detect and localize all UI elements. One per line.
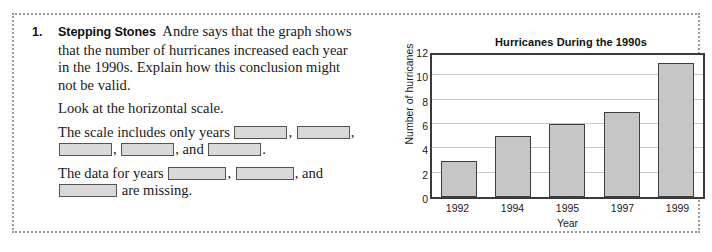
x-axis-tick-labels: 19921994199519971999 <box>430 202 705 214</box>
y-tick-label: 6 <box>422 120 428 132</box>
bar-1994 <box>495 136 531 197</box>
y-axis-tick-labels: 024681012 <box>406 53 428 199</box>
x-tick-label: 1997 <box>602 202 644 214</box>
fill-in-2-comma-a: , <box>227 165 231 181</box>
answer-blank-8[interactable] <box>59 184 117 197</box>
y-tick-label: 0 <box>422 193 428 205</box>
fill-in-1-period: . <box>262 141 266 157</box>
x-tick-label: 1992 <box>437 202 479 214</box>
plot-area <box>430 53 705 199</box>
bar-1997 <box>604 112 640 197</box>
problem-number: 1. <box>32 25 54 39</box>
answer-blank-5[interactable] <box>208 143 261 156</box>
fill-in-sentence-2: The data for years , , and are missing. <box>58 165 358 200</box>
bar-1999 <box>658 63 694 197</box>
fill-in-1-and: , and <box>175 141 203 157</box>
fill-in-1-comma-a: , <box>288 124 292 140</box>
y-tick-label: 8 <box>422 96 428 108</box>
answer-blank-4[interactable] <box>121 143 174 156</box>
y-tick-label: 4 <box>422 144 428 156</box>
problem-hint: Look at the horizontal scale. <box>58 100 358 118</box>
answer-blank-6[interactable] <box>168 167 226 180</box>
bar-1995 <box>549 124 585 197</box>
bar-1992 <box>441 161 477 198</box>
problem-prompt-paragraph: Stepping Stones Andre says that the grap… <box>58 23 358 94</box>
answer-blank-7[interactable] <box>236 167 294 180</box>
x-tick-label: 1999 <box>657 202 699 214</box>
hurricanes-bar-chart: Hurricanes During the 1990s Number of hu… <box>392 33 712 238</box>
fill-in-2-prefix: The data for years <box>58 165 164 181</box>
answer-blank-1[interactable] <box>234 126 287 139</box>
fill-in-1-comma-c: , <box>113 141 117 157</box>
x-tick-label: 1995 <box>547 202 589 214</box>
chart-title: Hurricanes During the 1990s <box>430 36 712 48</box>
problem-body: Stepping Stones Andre says that the grap… <box>58 23 358 206</box>
y-tick-label: 10 <box>416 71 428 83</box>
fill-in-1-prefix: The scale includes only years <box>58 124 230 140</box>
stepping-stones-label: Stepping Stones <box>58 25 156 39</box>
x-axis-title: Year <box>430 217 705 229</box>
answer-blank-2[interactable] <box>297 126 350 139</box>
x-tick-label: 1994 <box>492 202 534 214</box>
fill-in-1-comma-b: , <box>351 124 355 140</box>
fill-in-sentence-1: The scale includes only years , , , , an… <box>58 124 358 159</box>
y-tick-label: 2 <box>422 169 428 181</box>
answer-blank-3[interactable] <box>59 143 112 156</box>
exercise-frame: 1. Stepping Stones Andre says that the g… <box>12 13 700 233</box>
fill-in-2-suffix: are missing. <box>122 182 193 198</box>
fill-in-2-and: , and <box>295 165 323 181</box>
bars-layer <box>432 55 703 197</box>
y-tick-label: 12 <box>416 47 428 59</box>
